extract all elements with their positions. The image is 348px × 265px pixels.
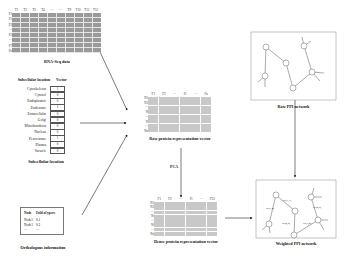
- dense-vector-panel: F1 F2 ··· Fi ··· F32 N1N2···Ni···Ni···Nn…: [146, 197, 226, 244]
- rnaseq-col: T2: [21, 8, 29, 12]
- weighted-ppi-caption: Weighted PPI network: [256, 241, 336, 246]
- rnaseq-col: T3: [30, 8, 38, 12]
- dense-vector-caption: Dense protein representation vector: [146, 239, 226, 244]
- raw-ppi-network-graph: [251, 32, 336, 100]
- rnaseq-row-label: ···: [4, 39, 12, 42]
- orthologous-caption: Orthologous information: [10, 245, 76, 250]
- raw-vector-col: F1: [148, 92, 159, 96]
- raw-vector-col: Fi: [180, 92, 191, 96]
- dense-vector-col: ···: [196, 197, 207, 201]
- orthologous-table: NodeFold of ypers Node10.1 Node10.2 ····…: [20, 207, 64, 235]
- rnaseq-col: T12: [91, 8, 99, 12]
- edge-weight-label: W(1,3): [283, 199, 291, 202]
- raw-vector-matrix: [148, 97, 212, 133]
- subcellular-panel: Subcellular location Vector Cytoskeleton…: [4, 78, 84, 164]
- edge-weight-label: W(2,5): [282, 222, 290, 225]
- raw-ppi-caption: Raw PPI network: [251, 104, 336, 109]
- ortho-header-node: Node: [24, 211, 36, 215]
- rnaseq-row-label: ···: [4, 29, 12, 32]
- rnaseq-matrix: [12, 13, 100, 53]
- rnaseq-col: T9: [65, 8, 73, 12]
- rnaseq-row-label: P7: [4, 45, 12, 48]
- rnaseq-col: T10: [74, 8, 82, 12]
- dense-vector-col: F2: [165, 197, 176, 201]
- raw-vector-col: Fn: [201, 92, 212, 96]
- rnaseq-col: T4: [39, 8, 47, 12]
- rnaseq-row-label: P5: [4, 34, 12, 37]
- dense-vector-col: Fi: [186, 197, 197, 201]
- subcellular-header-location: Subcellular location: [4, 78, 56, 82]
- rnaseq-col: ···: [48, 8, 56, 12]
- rnaseq-caption: RNA-Seq data: [4, 59, 100, 64]
- dense-vector-col: F32: [207, 197, 218, 201]
- dense-vector-matrix: [154, 202, 218, 236]
- subcellular-header-vector: Vector: [56, 78, 67, 82]
- rnaseq-row-label: P1: [4, 13, 12, 16]
- location-row: Vacuole0: [4, 148, 84, 154]
- edge-weight-label: W(4,6): [313, 206, 321, 209]
- raw-vector-col: ···: [190, 92, 201, 96]
- rnaseq-row-label: Pn: [4, 50, 12, 53]
- dense-vector-col: ···: [175, 197, 186, 201]
- pca-label: PCA: [170, 164, 178, 169]
- raw-vector-panel: F1 F2 ··· Fi ··· Fn N1N2···N···N···Nn Ra…: [140, 92, 220, 141]
- rnaseq-col: T11: [83, 8, 91, 12]
- subcellular-caption: Subcellular location: [4, 159, 84, 164]
- ortho-header-score: Fold of ypers: [36, 211, 55, 215]
- raw-vector-col: ···: [169, 92, 180, 96]
- edge-weight-label: W(1,2): [266, 207, 274, 210]
- dense-vector-col: F1: [154, 197, 165, 201]
- rnaseq-col: ···: [56, 8, 64, 12]
- rnaseq-row-label: P2: [4, 18, 12, 21]
- rnaseq-row-label: P3: [4, 24, 12, 27]
- edge-weight-label: W(3,4): [303, 222, 311, 225]
- raw-vector-caption: Raw protein representation vector: [140, 136, 220, 141]
- raw-vector-col: F2: [159, 92, 170, 96]
- rnaseq-panel: T1 T2 T3 T4 ··· ··· T9 T10 T11 T12 P1 P2…: [4, 8, 100, 64]
- rnaseq-col: T1: [12, 8, 20, 12]
